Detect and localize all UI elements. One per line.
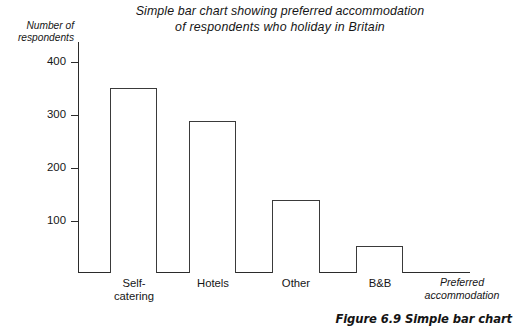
y-tick-label-400: 400 [20,55,66,67]
x-axis-label-line-1: Preferred [404,276,520,289]
plot-area: 400 300 200 100 Self- catering Hotels Ot… [0,0,520,333]
figure-container: Simple bar chart showing preferred accom… [0,0,520,333]
x-axis-label-line-2: accommodation [404,289,520,302]
y-tick-label-100: 100 [20,214,66,226]
bar-self-catering [110,88,157,273]
y-tick-mark-400 [71,62,79,63]
category-label-self-catering-line-2: catering [96,290,172,303]
y-tick-mark-100 [71,221,79,222]
bar-other [272,200,320,273]
bar-bandb [356,246,403,273]
category-label-hotels: Hotels [176,277,250,290]
y-tick-label-200: 200 [20,161,66,173]
x-axis-label: Preferred accommodation [404,276,520,302]
bar-hotels [189,121,236,273]
y-tick-mark-300 [71,115,79,116]
category-label-self-catering: Self- catering [96,277,172,304]
category-label-other: Other [259,277,333,290]
y-tick-mark-200 [71,168,79,169]
category-label-hotels-line-1: Hotels [176,277,250,290]
y-tick-label-300: 300 [20,108,66,120]
category-label-self-catering-line-1: Self- [96,277,172,290]
figure-caption: Figure 6.9 Simple bar chart [335,312,512,326]
category-label-other-line-1: Other [259,277,333,290]
y-axis-line [78,42,79,273]
